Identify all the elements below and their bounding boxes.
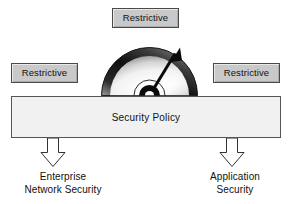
outcome-label-application-security: Application Security <box>177 170 293 196</box>
restrictive-box-left-label: Restrictive <box>22 68 67 78</box>
gauge-dial-icon <box>101 42 198 97</box>
outcome-label-enterprise-network-security: Enterprise Network Security <box>0 170 126 196</box>
arrow-down-icon-enterprise <box>38 138 68 168</box>
outcome-label-enterprise-line-1: Enterprise <box>0 170 126 183</box>
outcome-label-application-line-2: Security <box>177 183 293 196</box>
restrictive-box-left: Restrictive <box>11 63 78 83</box>
outcome-label-application-line-1: Application <box>177 170 293 183</box>
restrictive-box-top: Restrictive <box>112 8 179 28</box>
restrictive-box-right: Restrictive <box>213 63 280 83</box>
arrow-down-icon-application <box>217 138 247 168</box>
restrictive-box-top-label: Restrictive <box>123 13 168 23</box>
security-policy-label: Security Policy <box>112 112 181 123</box>
restrictive-box-right-label: Restrictive <box>224 68 269 78</box>
security-policy-bar: Security Policy <box>11 96 281 138</box>
security-policy-diagram: Restrictive Restrictive Restrictive <box>0 0 293 204</box>
outcome-label-enterprise-line-2: Network Security <box>0 183 126 196</box>
